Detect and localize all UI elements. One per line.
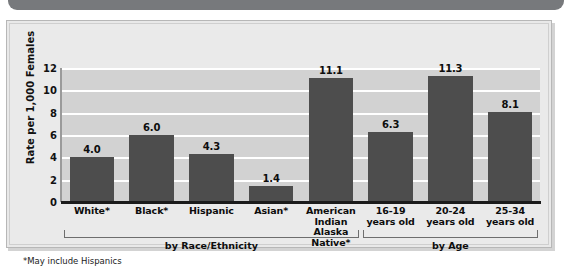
group-bracket <box>64 230 359 238</box>
x-category-label-line: 16-19 <box>357 206 425 217</box>
y-tick-label: 6 <box>41 130 57 141</box>
x-category-label: 25-34years old <box>476 206 544 227</box>
x-category-label-line: 20-24 <box>417 206 485 217</box>
y-axis-line <box>60 68 62 202</box>
y-axis-title: Rate per 1,000 Females <box>25 31 36 165</box>
bar <box>309 78 354 202</box>
bar-value-label: 4.3 <box>181 141 241 152</box>
y-tick-label: 8 <box>41 107 57 118</box>
bar <box>70 157 115 202</box>
card-drop-shadow-right <box>552 23 555 251</box>
bar <box>428 76 473 202</box>
x-category-label-line: years old <box>476 217 544 228</box>
bar-value-label: 6.0 <box>122 122 182 133</box>
x-category-label-line: American Indian <box>297 206 365 227</box>
group-label: by Race/Ethnicity <box>64 240 359 251</box>
group-bracket <box>363 230 538 238</box>
bar-value-label: 11.1 <box>301 65 361 76</box>
x-category-label-line: years old <box>357 217 425 228</box>
x-category-label: 20-24years old <box>417 206 485 227</box>
y-tick-label: 4 <box>41 152 57 163</box>
x-category-label-line: Asian* <box>237 206 305 217</box>
bar-value-label: 6.3 <box>361 119 421 130</box>
x-axis-baseline <box>61 201 541 204</box>
y-tick-label: 0 <box>41 197 57 208</box>
x-category-label-line: 25-34 <box>476 206 544 217</box>
x-category-label: Asian* <box>237 206 305 217</box>
x-category-label-line: years old <box>417 217 485 228</box>
y-tick-label: 10 <box>41 85 57 96</box>
footnote: *May include Hispanics <box>23 256 122 266</box>
x-category-label: White* <box>58 206 126 217</box>
x-category-label: 16-19years old <box>357 206 425 227</box>
bar <box>189 154 234 202</box>
x-category-label: Hispanic <box>178 206 246 217</box>
y-tick-label: 2 <box>41 174 57 185</box>
x-category-label: Black* <box>118 206 186 217</box>
top-banner-strip <box>8 0 564 10</box>
x-category-label-line: Black* <box>118 206 186 217</box>
group-label: by Age <box>363 240 538 251</box>
chart-card: Rate per 1,000 Females 024681012 4.06.04… <box>6 20 552 248</box>
x-category-label-line: White* <box>58 206 126 217</box>
bar-value-label: 8.1 <box>480 99 540 110</box>
bar-value-label: 11.3 <box>420 63 480 74</box>
bar <box>249 186 294 202</box>
bar <box>129 135 174 202</box>
x-category-label-line: Hispanic <box>178 206 246 217</box>
bar <box>368 132 413 202</box>
y-axis-ticks: 024681012 <box>37 68 57 202</box>
bar <box>488 112 533 202</box>
bar-value-label: 4.0 <box>62 144 122 155</box>
bar-value-label: 1.4 <box>241 173 301 184</box>
y-tick-label: 12 <box>41 63 57 74</box>
